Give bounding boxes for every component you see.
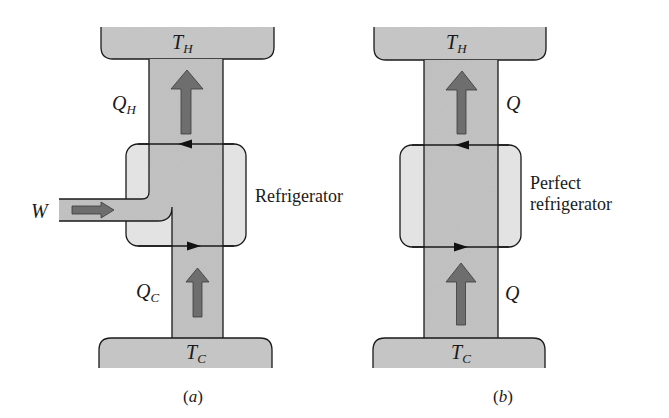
temp-subscript: H <box>457 41 466 56</box>
panel-b <box>373 27 546 368</box>
caption-paren: ) <box>507 387 513 406</box>
cold-reservoir-label-b: TC <box>451 342 471 362</box>
hot-reservoir-label-a: TH <box>172 32 193 52</box>
work-symbol: W <box>31 200 48 222</box>
heat-subscript: H <box>126 102 135 117</box>
caption-paren: ) <box>197 387 203 406</box>
heat-symbol: Q <box>112 92 126 114</box>
device-label-text: Refrigerator <box>255 186 343 206</box>
caption-letter: b <box>499 387 508 406</box>
temp-subscript: C <box>462 351 471 366</box>
heat-in-label-a: QC <box>136 281 159 301</box>
temp-symbol: T <box>172 31 183 53</box>
heat-subscript: C <box>150 290 159 305</box>
temp-symbol: T <box>186 341 197 363</box>
cold-reservoir-label-a: TC <box>186 342 206 362</box>
temp-subscript: C <box>197 351 206 366</box>
hot-reservoir-label-b: TH <box>446 32 467 52</box>
panel-a <box>59 27 274 368</box>
device-label-line1: Perfect <box>530 173 612 194</box>
perfect-refrigerator-label-b: Perfect refrigerator <box>530 173 612 215</box>
caption-letter: a <box>189 387 198 406</box>
caption-a: (a) <box>183 388 203 405</box>
temp-subscript: H <box>183 41 192 56</box>
heat-in-label-b: Q <box>505 283 519 303</box>
heat-symbol: Q <box>505 282 519 304</box>
device-label-line2: refrigerator <box>530 194 612 215</box>
heat-symbol: Q <box>136 280 150 302</box>
heat-out-label-b: Q <box>506 93 520 113</box>
temp-symbol: T <box>451 341 462 363</box>
heat-symbol: Q <box>506 92 520 114</box>
refrigerator-label-a: Refrigerator <box>255 186 343 207</box>
work-in-label-a: W <box>31 201 48 221</box>
caption-b: (b) <box>493 388 513 405</box>
temp-symbol: T <box>446 31 457 53</box>
heat-out-label-a: QH <box>112 93 136 113</box>
